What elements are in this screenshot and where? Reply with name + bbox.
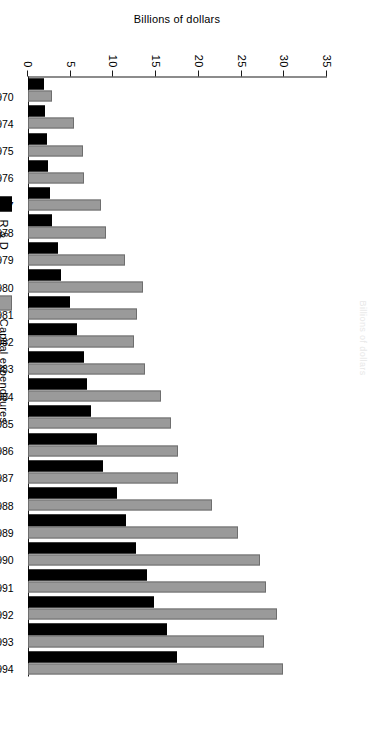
y-axis-tick-mark xyxy=(326,70,327,76)
x-axis-tick-label: 1976 xyxy=(0,171,14,183)
chart-figure-rotator: Billions of dollars 05101520253035 Billi… xyxy=(0,0,370,731)
bar-group: 1987 xyxy=(28,458,327,485)
bar-capital-expenditures xyxy=(28,117,74,128)
bar-capital-expenditures xyxy=(28,90,52,101)
x-axis-tick-label: 1975 xyxy=(0,144,14,156)
bar-capital-expenditures xyxy=(28,363,145,374)
bar-rd xyxy=(28,623,167,634)
x-axis-tick-label: 1990 xyxy=(0,553,14,565)
bar-group: 1975 xyxy=(28,131,327,158)
chart-legend: R & D Capital expenditures xyxy=(0,196,12,423)
bar-capital-expenditures xyxy=(28,472,178,483)
bar-group: 1980 xyxy=(28,267,327,294)
y-axis-tick-label: 20 xyxy=(193,54,205,67)
y-axis-tick-mark xyxy=(70,70,71,76)
y-axis-tick-label: 5 xyxy=(65,61,77,67)
bar-group: 1976 xyxy=(28,158,327,185)
y-axis-tick-label: 10 xyxy=(107,54,119,67)
bar-capital-expenditures xyxy=(28,581,266,592)
bar-group: 1991 xyxy=(28,567,327,594)
x-axis-tick-label: 1974 xyxy=(0,117,14,129)
x-axis-tick-label: 1970 xyxy=(0,90,14,102)
bar-group: 1982 xyxy=(28,321,327,348)
x-axis-tick-label: 1986 xyxy=(0,444,14,456)
bar-rd xyxy=(28,542,136,553)
bar-rd xyxy=(28,323,77,334)
bar-group: 1974 xyxy=(28,103,327,130)
bar-group: 1979 xyxy=(28,240,327,267)
bar-capital-expenditures xyxy=(28,417,171,428)
bar-rd xyxy=(28,596,154,607)
bar-rd xyxy=(28,269,61,280)
bar-rd xyxy=(28,651,177,662)
bar-rd xyxy=(28,214,52,225)
y-axis-tick-label: 35 xyxy=(321,54,333,67)
bar-chart-figure: Billions of dollars 05101520253035 Billi… xyxy=(0,0,370,731)
bar-rd xyxy=(28,433,97,444)
bar-group: 1983 xyxy=(28,349,327,376)
bar-group: 1990 xyxy=(28,540,327,567)
bar-group: 1981 xyxy=(28,294,327,321)
bar-rd xyxy=(28,105,45,116)
bar-group: 1988 xyxy=(28,485,327,512)
x-axis-tick-label: 1992 xyxy=(0,608,14,620)
x-axis-tick-label: 1993 xyxy=(0,635,14,647)
bar-rd xyxy=(28,160,49,171)
bar-capital-expenditures xyxy=(28,172,84,183)
x-axis-tick-label: 1991 xyxy=(0,581,14,593)
bar-group: 1970 xyxy=(28,76,327,103)
bar-group: 1978 xyxy=(28,212,327,239)
legend-label-rd: R & D xyxy=(0,219,11,249)
bar-group: 1992 xyxy=(28,594,327,621)
y-axis-tick-label: 15 xyxy=(150,54,162,67)
bar-group: 1984 xyxy=(28,376,327,403)
bar-group: 1994 xyxy=(28,649,327,676)
y-axis-tick-label: 30 xyxy=(278,54,290,67)
bar-capital-expenditures xyxy=(28,554,260,565)
y-axis-tick-mark xyxy=(27,70,28,76)
bars-layer: 1970197419751976197719781979198019811982… xyxy=(28,76,327,676)
bar-capital-expenditures xyxy=(28,390,161,401)
bar-rd xyxy=(28,351,84,362)
bar-rd xyxy=(28,296,70,307)
bar-rd xyxy=(28,242,58,253)
y-axis-tick-mark xyxy=(155,70,156,76)
x-axis-tick-label: 1987 xyxy=(0,471,14,483)
y-axis-title: Billions of dollars xyxy=(134,12,220,24)
x-axis-tick-label: 1994 xyxy=(0,662,14,674)
bar-rd xyxy=(28,405,91,416)
legend-item-capital-expenditures: Capital expenditures xyxy=(0,295,12,422)
y-axis-tick-label: 25 xyxy=(236,54,248,67)
bar-capital-expenditures xyxy=(28,281,143,292)
bar-rd xyxy=(28,569,147,580)
bar-capital-expenditures xyxy=(28,526,238,537)
x-axis-tick-label: 1989 xyxy=(0,526,14,538)
bar-capital-expenditures xyxy=(28,499,212,510)
bar-capital-expenditures xyxy=(28,608,277,619)
bar-group: 1986 xyxy=(28,431,327,458)
legend-label-capital-expenditures: Capital expenditures xyxy=(0,318,11,422)
bar-rd xyxy=(28,487,117,498)
bar-capital-expenditures xyxy=(28,145,83,156)
bar-capital-expenditures xyxy=(28,226,106,237)
bar-group: 1985 xyxy=(28,403,327,430)
bar-rd xyxy=(28,133,47,144)
bar-capital-expenditures xyxy=(28,308,137,319)
black-square-swatch-icon xyxy=(0,196,12,211)
bar-rd xyxy=(28,78,44,89)
bar-group: 1989 xyxy=(28,512,327,539)
bar-rd xyxy=(28,514,126,525)
y-axis-tick-label: 0 xyxy=(22,61,34,67)
x-axis-tick-label: 1988 xyxy=(0,499,14,511)
bar-rd xyxy=(28,460,103,471)
gray-square-swatch-icon xyxy=(0,295,12,310)
bar-rd xyxy=(28,187,50,198)
bar-group: 1977 xyxy=(28,185,327,212)
bar-group: 1993 xyxy=(28,621,327,648)
bar-capital-expenditures xyxy=(28,335,134,346)
bar-capital-expenditures xyxy=(28,254,125,265)
bar-capital-expenditures xyxy=(28,635,264,646)
y-axis-tick-mark xyxy=(283,70,284,76)
y-axis-tick-mark xyxy=(112,70,113,76)
plot-area: 05101520253035 Billions of dollars 19701… xyxy=(28,76,327,676)
